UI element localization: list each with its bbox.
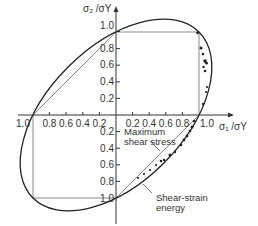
x-tick-label: 0.4 — [76, 118, 90, 129]
yield-criteria-chart: 0.2 0.4 0.6 0.8 1.0 1.0 0.8 0.6 0.4 0.2 … — [0, 0, 258, 226]
y-tick-label: 1.0 — [100, 20, 114, 31]
x-tick-label: 0.6 — [59, 118, 73, 129]
y-tick-label: 0.6 — [100, 159, 114, 170]
y-tick-label: 0.2 — [100, 93, 114, 104]
y-tick-label: 0.8 — [100, 176, 114, 187]
y-tick-label: 0.8 — [100, 43, 114, 54]
x-axis-arrow-icon — [228, 113, 234, 118]
y-tick-label: 1.0 — [100, 193, 114, 204]
y-tick-label: 0.6 — [100, 59, 114, 70]
annotation-energy: energy — [156, 202, 185, 213]
x-tick-label: 1.0 — [16, 118, 30, 129]
annotation-energy-leader — [143, 184, 152, 193]
shear-strain-energy-ellipse — [0, 0, 247, 226]
y-axis-arrow-icon — [114, 6, 119, 12]
y-tick-label: 0.4 — [100, 76, 114, 87]
x-tick-label: 0.8 — [42, 118, 56, 129]
y-axis-title: σ₂ /σY — [83, 3, 112, 14]
y-tick-label: 0.2 — [100, 126, 114, 137]
x-tick-label: 0.8 — [175, 118, 189, 129]
x-tick-label: 1.0 — [200, 118, 214, 129]
y-ticks — [116, 32, 120, 182]
y-tick-label: 0.4 — [100, 143, 114, 154]
x-axis-title: σ₁ /σY — [219, 121, 247, 132]
